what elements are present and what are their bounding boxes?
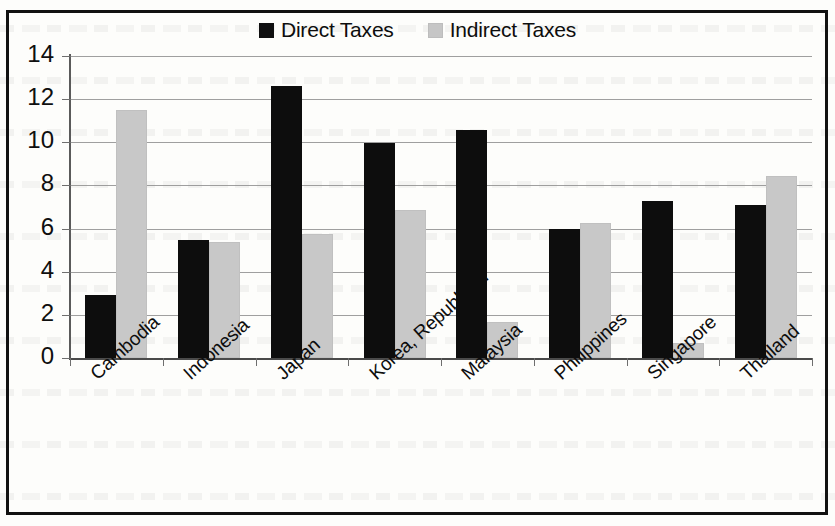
y-tick-label-10: 10 — [8, 126, 54, 154]
x-tick — [348, 358, 349, 366]
y-tick-label-8: 8 — [8, 169, 54, 197]
y-tick-14 — [62, 56, 71, 57]
y-tick-label-0: 0 — [8, 342, 54, 370]
x-tick — [441, 358, 442, 366]
x-tick — [70, 358, 71, 366]
gray-square-icon — [428, 23, 443, 38]
chart-legend: Direct Taxes Indirect Taxes — [0, 18, 835, 42]
bar-direct[interactable] — [271, 86, 302, 358]
x-tick — [812, 358, 813, 366]
legend-entry-indirect-taxes: Indirect Taxes — [428, 18, 576, 42]
x-tick — [256, 358, 257, 366]
bar-chart-figure: Direct Taxes Indirect Taxes 14121086420 … — [0, 0, 835, 526]
legend-label-indirect-taxes: Indirect Taxes — [450, 18, 576, 42]
x-tick — [627, 358, 628, 366]
legend-label-direct-taxes: Direct Taxes — [281, 18, 394, 42]
y-tick-label-2: 2 — [8, 299, 54, 327]
y-tick-2 — [62, 315, 71, 316]
y-tick-6 — [62, 229, 71, 230]
y-tick-label-12: 12 — [8, 83, 54, 111]
y-tick-label-6: 6 — [8, 213, 54, 241]
y-tick-label-4: 4 — [8, 256, 54, 284]
x-tick — [719, 358, 720, 366]
x-tick — [163, 358, 164, 366]
y-tick-12 — [62, 99, 71, 100]
bar-direct[interactable] — [456, 130, 487, 358]
bar-group — [163, 56, 256, 358]
bar-direct[interactable] — [642, 201, 673, 358]
y-tick-label-14: 14 — [8, 40, 54, 68]
x-tick — [534, 358, 535, 366]
bar-direct[interactable] — [735, 205, 766, 358]
y-tick-4 — [62, 272, 71, 273]
y-tick-10 — [62, 142, 71, 143]
legend-entry-direct-taxes: Direct Taxes — [259, 18, 394, 42]
bar-group — [256, 56, 349, 358]
black-square-icon — [259, 23, 274, 38]
bar-direct[interactable] — [364, 143, 395, 358]
bar-direct[interactable] — [178, 240, 209, 358]
bar-group — [719, 56, 812, 358]
bar-direct[interactable] — [549, 229, 580, 358]
y-tick-8 — [62, 185, 71, 186]
